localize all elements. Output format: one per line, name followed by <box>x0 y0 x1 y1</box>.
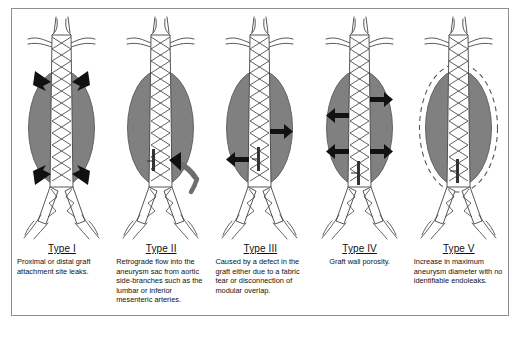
illustration-type-5 <box>409 9 508 241</box>
endoleak-diagram-page: Type I Proximal or distal graft attachme… <box>0 0 522 346</box>
illustration-type-3 <box>210 9 309 241</box>
caption-title: Type II <box>116 243 206 254</box>
caption-type-5: Type V Increase in maximum aneurysm diam… <box>409 243 508 286</box>
illustration-type-2 <box>111 9 210 241</box>
panel-type-3: Type III Caused by a defect in the graft… <box>210 9 309 315</box>
caption-body: Graft wall porosity. <box>315 257 405 267</box>
anatomy-svg-type-2 <box>111 9 210 241</box>
panel-type-1: Type I Proximal or distal graft attachme… <box>12 9 111 315</box>
panel-type-4: Type IV Graft wall porosity. <box>310 9 409 315</box>
caption-type-3: Type III Caused by a defect in the graft… <box>210 243 309 295</box>
illustration-type-1 <box>12 9 111 241</box>
anatomy-svg-type-4 <box>310 9 409 241</box>
caption-body: Retrograde flow into the aneurysm sac fr… <box>116 257 206 305</box>
caption-type-2: Type II Retrograde flow into the aneurys… <box>111 243 210 305</box>
caption-body: Increase in maximum aneurysm diameter wi… <box>414 257 504 286</box>
anatomy-svg-type-3 <box>210 9 309 241</box>
anatomy-svg-type-1 <box>12 9 111 241</box>
anatomy-svg-type-5 <box>409 9 508 241</box>
caption-title: Type I <box>17 243 107 254</box>
panel-row: Type I Proximal or distal graft attachme… <box>12 9 508 315</box>
caption-title: Type III <box>215 243 305 254</box>
caption-title: Type V <box>414 243 504 254</box>
caption-type-1: Type I Proximal or distal graft attachme… <box>12 243 111 276</box>
caption-body: Caused by a defect in the graft either d… <box>215 257 305 295</box>
caption-title: Type IV <box>315 243 405 254</box>
panel-type-2: Type II Retrograde flow into the aneurys… <box>111 9 210 315</box>
illustration-type-4 <box>310 9 409 241</box>
caption-body: Proximal or distal graft attachment site… <box>17 257 107 276</box>
caption-type-4: Type IV Graft wall porosity. <box>310 243 409 267</box>
panel-type-5: Type V Increase in maximum aneurysm diam… <box>409 9 508 315</box>
